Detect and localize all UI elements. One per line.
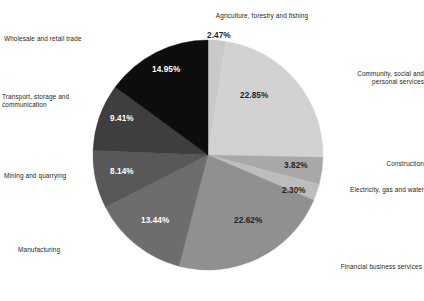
slice-label-community-social-and-personal-services: Community, social and personal services [320,70,424,87]
slice-value-manufacturing: 13.44% [141,216,169,225]
slice-label-transport-storage-and-communication: Transport, storage and communication [2,93,108,110]
slice-value-transport-storage-and-communication: 9.41% [110,114,134,123]
slice-label-financial-business-services: Financial business services [272,263,422,271]
slice-label-wholesale-and-retail-trade: Wholesale and retail trade [4,35,144,43]
pie-chart-canvas [0,0,424,301]
slice-value-wholesale-and-retail-trade: 14.95% [152,65,180,74]
slice-label-manufacturing: Manufacturing [18,246,120,254]
pie-chart-figure: Agriculture, forestry and fishing Wholes… [0,0,424,301]
pie-slice-group [93,40,323,270]
slice-label-mining-and-quarrying: Mining and quarrying [4,172,104,180]
slice-value-mining-and-quarrying: 8.14% [110,167,134,176]
slice-label-construction: Construction [314,160,424,168]
slice-value-construction: 3.82% [284,161,308,170]
slice-value-electricity-gas-and-water: 2.30% [282,186,306,195]
slice-label-electricity-gas-and-water: Electricity, gas and water [310,186,424,194]
slice-value-agriculture-forestry-and-fishing: 2.47% [207,31,231,40]
slice-value-financial-business-services: 22.62% [234,216,262,225]
slice-value-community-social-and-personal-services: 22.85% [240,91,268,100]
slice-label-agriculture-forestry-and-fishing: Agriculture, forestry and fishing [196,12,328,20]
